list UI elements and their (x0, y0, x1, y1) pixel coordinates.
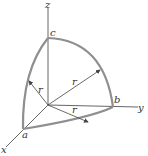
point-c-label: c (50, 27, 56, 38)
arc-a-b (23, 107, 113, 129)
point-b-label: b (114, 94, 120, 105)
arc-c-a (23, 38, 48, 129)
radius-label-ca: r (38, 84, 44, 95)
y-axis (48, 105, 138, 107)
x-axis-label: x (1, 144, 7, 155)
z-axis-label: z (44, 0, 51, 10)
point-a-label: a (22, 129, 28, 140)
y-axis-label: y (137, 102, 144, 113)
arc-c-b (48, 38, 113, 107)
sphere-octant-diagram: z y x c b a r r r (0, 0, 148, 156)
